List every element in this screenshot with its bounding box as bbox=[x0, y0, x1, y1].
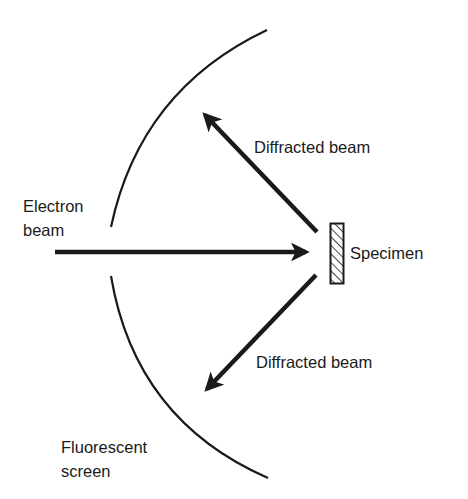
electron-beam-label-line1: Electron bbox=[23, 197, 84, 215]
electron-diffraction-diagram: Electron beam Diffracted beam Specimen D… bbox=[0, 0, 468, 499]
specimen-label: Specimen bbox=[350, 244, 423, 262]
lower-diffracted-beam-arrow bbox=[207, 275, 316, 389]
upper-diffracted-beam-arrow bbox=[205, 115, 317, 232]
lower-diffracted-beam-label: Diffracted beam bbox=[256, 353, 372, 371]
fluorescent-screen-upper-arc bbox=[111, 30, 267, 227]
specimen-block bbox=[331, 224, 344, 284]
electron-beam-label-line2: beam bbox=[23, 221, 64, 239]
fluorescent-screen-label-line2: screen bbox=[61, 462, 111, 480]
fluorescent-screen-label-line1: Fluorescent bbox=[61, 438, 148, 456]
upper-diffracted-beam-label: Diffracted beam bbox=[254, 138, 370, 156]
